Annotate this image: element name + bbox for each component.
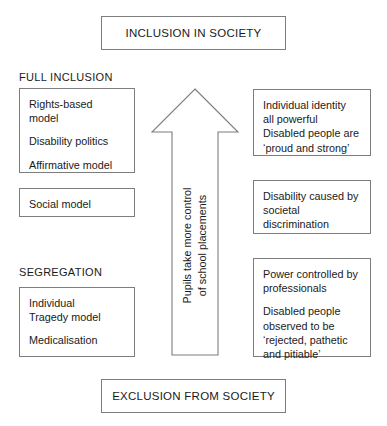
full-inclusion-label: FULL INCLUSION	[19, 71, 113, 83]
box-paragraph: Individual identity all powerful Disable…	[263, 98, 361, 155]
inclusion-in-society-label: INCLUSION IN SOCIETY	[126, 27, 262, 39]
segregation-label: SEGREGATION	[19, 266, 102, 278]
box-paragraph: Medicalisation	[29, 333, 125, 347]
box-paragraph: Disability caused by societal discrimina…	[263, 189, 361, 232]
box-paragraph: Disabled people observed to be ‘rejected…	[263, 304, 361, 361]
box-paragraph: Individual Tragedy model	[29, 296, 125, 324]
box-paragraph: Affirmative model	[29, 158, 125, 172]
arrow-shape	[152, 89, 238, 355]
box-paragraph: Disability politics	[29, 134, 125, 148]
full-inclusion-models-box: Rights-based model Disability politics A…	[19, 88, 135, 173]
inclusion-in-society-banner: INCLUSION IN SOCIETY	[101, 16, 286, 50]
box-paragraph: Social model	[29, 197, 125, 211]
segregation-models-box: Individual Tragedy model Medicalisation	[19, 287, 135, 357]
exclusion-from-society-label: EXCLUSION FROM SOCIETY	[112, 390, 275, 402]
box-paragraph: Rights-based model	[29, 97, 125, 125]
exclusion-from-society-banner: EXCLUSION FROM SOCIETY	[101, 379, 286, 413]
professional-power-box: Power controlled by professionals Disabl…	[253, 258, 371, 357]
social-model-box: Social model	[19, 188, 135, 217]
inclusion-exclusion-diagram: INCLUSION IN SOCIETY FULL INCLUSION Righ…	[0, 0, 387, 426]
societal-discrimination-box: Disability caused by societal discrimina…	[253, 180, 371, 234]
upward-arrow	[150, 86, 240, 358]
individual-identity-box: Individual identity all powerful Disable…	[253, 89, 371, 156]
box-paragraph: Power controlled by professionals	[263, 267, 361, 295]
